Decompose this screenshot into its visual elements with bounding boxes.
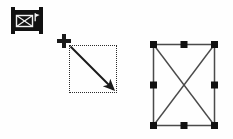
selected-crossed-rectangle[interactable] [148, 39, 220, 131]
handle-middle-right [211, 82, 218, 89]
crossed-rectangle-graphic [148, 39, 220, 131]
handle-bottom-center [181, 122, 188, 129]
handle-bottom-left [150, 122, 157, 129]
handle-bottom-right [211, 122, 218, 129]
handle-top-center [181, 41, 188, 48]
handle-middle-left [150, 82, 157, 89]
crossed-box-tool-button[interactable] [11, 7, 43, 34]
crossed-box-icon [11, 7, 43, 34]
handle-top-right [211, 41, 218, 48]
crosshair-vertical-bar [62, 34, 66, 48]
dotted-drag-rectangle[interactable] [69, 45, 117, 93]
illustration-canvas [0, 0, 233, 139]
flag-marker-icon [35, 13, 39, 21]
handle-top-left [150, 41, 157, 48]
